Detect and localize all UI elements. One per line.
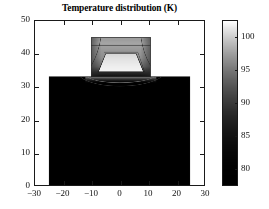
y-axis-tick-label: 30: [4, 80, 30, 90]
y-axis-tick-label: 0: [4, 180, 30, 190]
x-axis-tick-label: 20: [162, 188, 192, 198]
x-axis-tick-label: 30: [190, 188, 220, 198]
temperature-distribution-figure: Temperature distribution (K) −30−20−1001…: [0, 0, 269, 209]
x-axis-tick-label: 10: [133, 188, 163, 198]
colorbar-tick-label: 90: [241, 97, 250, 107]
colorbar-tick-label: 85: [241, 130, 250, 140]
y-axis-tick-label: 10: [4, 147, 30, 157]
colorbar-tick-label: 80: [241, 163, 250, 173]
colorbar-tick-label: 100: [241, 31, 255, 41]
colorbar: [222, 20, 238, 186]
plot-axes: [34, 20, 205, 186]
page-title: Temperature distribution (K): [34, 2, 205, 14]
x-axis-tick-label: −10: [76, 188, 106, 198]
y-axis-tick-label: 20: [4, 114, 30, 124]
x-axis-tick-label: 0: [105, 188, 135, 198]
y-axis-tick-label: 40: [4, 47, 30, 57]
heatmap-canvas: [35, 21, 204, 185]
y-axis-tick-label: 50: [4, 14, 30, 24]
x-axis-tick-label: −20: [48, 188, 78, 198]
colorbar-gradient: [223, 21, 237, 185]
colorbar-tick-label: 95: [241, 64, 250, 74]
